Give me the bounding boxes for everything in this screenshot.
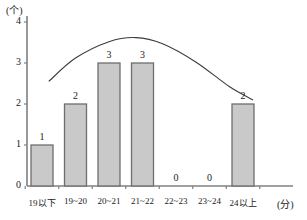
- y-axis-tick-label: 2: [7, 97, 21, 108]
- bar-value-label: 1: [27, 131, 57, 142]
- bar-value-label: 0: [161, 172, 191, 183]
- bar-value-label: 2: [228, 90, 258, 101]
- x-axis-category-label: 24以上: [220, 196, 266, 209]
- chart-plot-area: [0, 0, 307, 220]
- bar-value-label: 0: [195, 172, 225, 183]
- bar: [65, 104, 87, 186]
- bar-value-label: 3: [128, 49, 158, 60]
- bar-value-label: 2: [61, 90, 91, 101]
- y-axis-tick-label: 4: [7, 15, 21, 26]
- histogram-chart: (个) (分) 01234 19以下19~2020~2121~2222~2323…: [0, 0, 307, 220]
- x-axis-unit-label: (分): [277, 196, 294, 211]
- y-axis-tick-label: 3: [7, 56, 21, 67]
- bar: [98, 63, 120, 186]
- bar: [232, 104, 254, 186]
- y-axis-tick-label: 0: [7, 179, 21, 190]
- bar: [31, 145, 53, 186]
- bar-value-label: 3: [94, 49, 124, 60]
- y-axis-tick-label: 1: [7, 138, 21, 149]
- bar: [132, 63, 154, 186]
